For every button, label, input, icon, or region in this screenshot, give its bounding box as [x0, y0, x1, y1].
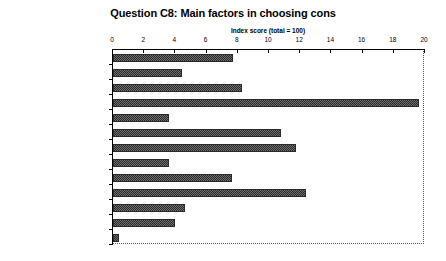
bar: [113, 204, 185, 212]
x-tick: [143, 49, 144, 53]
plot-area: 02468101214161820 General reputation of …: [112, 49, 424, 244]
x-tick-label: 20: [414, 36, 434, 43]
bar: [113, 174, 232, 182]
plot-frame-bottom: [112, 243, 424, 244]
x-tick: [112, 49, 113, 53]
bar: [113, 99, 419, 107]
x-tick-label: 12: [289, 36, 309, 43]
x-tick-label: 14: [320, 36, 340, 43]
x-tick-label: 6: [196, 36, 216, 43]
plot-frame-right: [423, 49, 424, 244]
chart-title: Question C8: Main factors in choosing co…: [0, 7, 446, 19]
x-tick-label: 8: [227, 36, 247, 43]
bar: [113, 84, 242, 92]
y-tick: [109, 109, 113, 110]
x-tick: [299, 49, 300, 53]
x-tick: [237, 49, 238, 53]
y-tick: [109, 184, 113, 185]
y-tick: [109, 139, 113, 140]
bar: [113, 129, 281, 137]
y-tick: [109, 169, 113, 170]
x-tick: [206, 49, 207, 53]
bar: [113, 219, 175, 227]
bar: [113, 114, 169, 122]
y-tick: [109, 154, 113, 155]
y-tick: [109, 229, 113, 230]
bar: [113, 159, 169, 167]
y-tick: [109, 79, 113, 80]
x-tick-label: 18: [383, 36, 403, 43]
x-tick: [174, 49, 175, 53]
x-axis-label: Index score (total = 100): [112, 27, 424, 34]
x-tick: [362, 49, 363, 53]
x-tick: [424, 49, 425, 53]
bar: [113, 54, 233, 62]
y-tick: [109, 64, 113, 65]
bar: [113, 189, 306, 197]
x-tick-label: 16: [352, 36, 372, 43]
y-tick: [109, 94, 113, 95]
bar: [113, 234, 119, 242]
x-tick-label: 10: [258, 36, 278, 43]
x-tick: [268, 49, 269, 53]
x-tick-label: 2: [133, 36, 153, 43]
x-tick-label: 0: [102, 36, 122, 43]
x-tick: [393, 49, 394, 53]
chart-container: Question C8: Main factors in choosing co…: [0, 0, 446, 261]
y-tick: [109, 124, 113, 125]
y-tick: [109, 244, 113, 245]
x-tick-label: 4: [164, 36, 184, 43]
bar: [113, 69, 182, 77]
bar: [113, 144, 296, 152]
y-tick: [109, 214, 113, 215]
y-tick: [109, 199, 113, 200]
x-tick: [330, 49, 331, 53]
